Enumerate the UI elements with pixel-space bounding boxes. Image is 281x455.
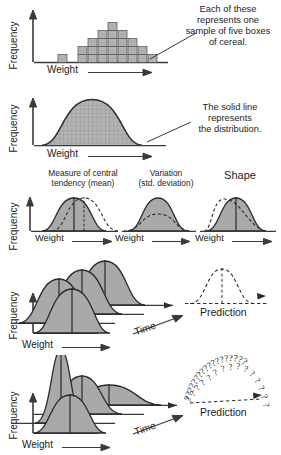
y-axis-arrow-5 — [29, 393, 36, 433]
callout-line: Each of these — [178, 4, 278, 15]
x-axis-arrow-3a — [72, 238, 112, 244]
svg-text:?: ? — [256, 384, 267, 393]
x-axis-arrow-3b — [152, 238, 190, 244]
y-axis-arrow-1 — [29, 10, 36, 62]
callout-line: represents — [182, 113, 278, 124]
svg-text:?: ? — [236, 361, 241, 371]
x-axis-label-weight-3b: Weight — [115, 233, 144, 243]
x-axis-arrow-5 — [62, 444, 110, 451]
panel-properties: Frequency Measure of central tendency (m… — [0, 168, 281, 255]
panel-stable-process: Frequency — [0, 255, 281, 355]
x-axis-label-weight-5: Weight — [22, 439, 53, 450]
panel-histogram: Frequency — [0, 0, 281, 88]
panel-unstable-process: Frequency — [0, 355, 281, 455]
svg-text:?: ? — [204, 372, 213, 382]
prediction-label-4: Prediction — [200, 306, 247, 318]
svg-text:?: ? — [220, 363, 227, 374]
callout-text-1: Each of these represents one sample of f… — [178, 4, 278, 48]
svg-text:?: ? — [228, 362, 233, 372]
prediction-label-5: Prediction — [200, 406, 247, 418]
svg-text:?: ? — [211, 367, 219, 378]
x-axis-arrow-3c — [232, 238, 272, 244]
prediction-curve-4 — [185, 268, 268, 304]
panel-distribution: Frequency Weight The solid — [0, 88, 281, 168]
x-axis-label-weight-2: Weight — [47, 148, 78, 159]
x-axis-label-weight-3a: Weight — [35, 233, 64, 243]
y-axis-arrow-3 — [27, 197, 34, 231]
svg-text:?: ? — [253, 376, 263, 386]
svg-text:?: ? — [259, 393, 270, 401]
callout-line: of cereal. — [178, 37, 278, 48]
callout-line: the distribution. — [182, 124, 278, 135]
svg-text:?: ? — [261, 402, 272, 409]
x-axis-arrow-2 — [88, 153, 152, 160]
x-axis-arrow-1 — [88, 69, 152, 76]
x-axis-arrow-4 — [62, 344, 110, 351]
svg-text:?: ? — [248, 368, 257, 379]
y-axis-arrow-2 — [29, 98, 36, 145]
callout-text-2: The solid line represents the distributi… — [182, 102, 278, 135]
callout-line: sample of five boxes — [178, 26, 278, 37]
callout-line: represents one — [178, 15, 278, 26]
x-axis-label-weight-4: Weight — [22, 339, 53, 350]
histogram-blocks — [58, 23, 157, 63]
x-axis-label-weight-1: Weight — [47, 64, 78, 75]
callout-line: The solid line — [182, 102, 278, 113]
x-axis-label-weight-3c: Weight — [195, 233, 224, 243]
